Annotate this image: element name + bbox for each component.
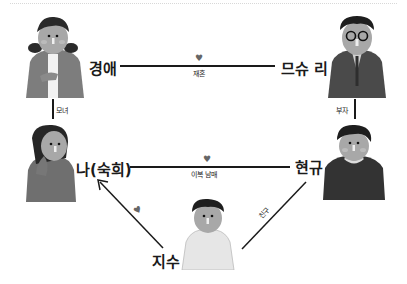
relation-mother-daughter: 모녀 <box>56 105 68 115</box>
name-gyeongae: 경애 <box>89 57 117 78</box>
name-na: 나(숙희) <box>76 158 132 179</box>
remarriage-line <box>120 65 275 67</box>
mother-daughter-line <box>52 99 54 119</box>
person-hyeongyu-illustration <box>321 124 387 202</box>
person-gyeongae-illustration <box>22 14 86 98</box>
relation-half-siblings: 이복 남매 <box>191 169 217 179</box>
half-siblings-line <box>130 166 290 168</box>
person-jisu-illustration <box>180 198 236 270</box>
name-hyeongyu: 현규 <box>295 156 323 177</box>
heart-icon: ♥ <box>203 155 211 164</box>
father-son-line <box>354 99 356 119</box>
name-museuri: 므슈 리 <box>281 57 328 78</box>
heart-icon: ♥ <box>195 54 203 63</box>
person-na-illustration <box>22 124 80 202</box>
relation-father-son: 부자 <box>336 105 348 115</box>
relation-remarriage: 재혼 <box>193 68 205 78</box>
name-jisu: 지수 <box>152 250 180 271</box>
person-museuri-illustration <box>326 12 388 98</box>
